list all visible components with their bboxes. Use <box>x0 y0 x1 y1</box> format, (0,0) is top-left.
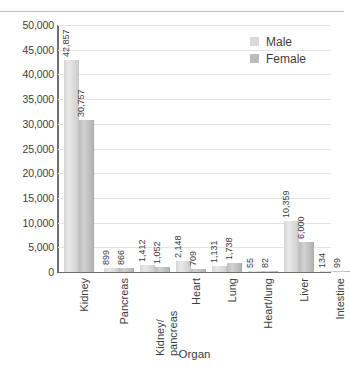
x-axis-category-text: Heart/lung <box>262 278 275 329</box>
bar-male[interactable] <box>248 271 263 272</box>
y-axis-tick-label: 0 <box>0 267 54 278</box>
y-axis-tick-label: 5,000 <box>0 242 54 253</box>
bar-value-label: 10,359 <box>282 190 291 218</box>
y-axis-tick-label: 25,000 <box>0 144 54 155</box>
x-axis-category-text: Kidney <box>78 278 91 312</box>
y-axis-tick-label: 10,000 <box>0 218 54 229</box>
bar-female[interactable] <box>191 269 206 273</box>
bar-male[interactable] <box>320 271 335 272</box>
x-axis-title: Organ <box>58 348 331 360</box>
bar-female[interactable] <box>335 271 350 272</box>
y-axis-tick-label: 40,000 <box>0 69 54 80</box>
chart-legend: Male Female <box>250 33 336 67</box>
bar-female[interactable] <box>155 267 170 272</box>
bar-value-label: 1,412 <box>138 240 147 263</box>
bar-female[interactable] <box>263 271 278 272</box>
bar-group: 899866 <box>104 25 134 272</box>
legend-item-male: Male <box>250 33 336 50</box>
legend-item-female: Female <box>250 50 336 67</box>
bar-value-label: 709 <box>189 250 198 265</box>
bar-value-label: 899 <box>102 250 111 265</box>
bar-group: 1,4121,052 <box>140 25 170 272</box>
bar-female[interactable] <box>227 263 242 272</box>
legend-label-female: Female <box>266 53 306 65</box>
y-axis-tick-label: 15,000 <box>0 193 54 204</box>
bar-value-label: 1,131 <box>210 241 219 264</box>
bar-value-label: 30,757 <box>77 90 86 118</box>
bar-value-label: 866 <box>117 250 126 265</box>
y-axis-tick-label: 20,000 <box>0 168 54 179</box>
bar-value-label: 1,052 <box>153 241 162 264</box>
bar-value-label: 134 <box>318 253 327 268</box>
bar-value-label: 6,000 <box>297 217 306 240</box>
bar-male[interactable] <box>140 265 155 272</box>
x-axis-category-text: Lung <box>226 278 239 302</box>
x-axis-category-text: Intestine <box>334 278 347 320</box>
y-axis-tick-label: 30,000 <box>0 119 54 130</box>
x-axis-category-text: Pancreas <box>118 278 131 324</box>
bar-female[interactable] <box>299 242 314 272</box>
legend-label-male: Male <box>266 36 292 48</box>
x-axis-category-text: Kidney/pancreas <box>154 278 179 356</box>
y-axis-tick-label: 45,000 <box>0 45 54 56</box>
y-axis-tick-label: 35,000 <box>0 94 54 105</box>
x-axis-category-text: Heart <box>190 278 203 305</box>
bar-group: 1,1311,738 <box>212 25 242 272</box>
bar-male[interactable] <box>212 266 227 272</box>
y-axis-tick-labels: 05,00010,00015,00020,00025,00030,00035,0… <box>0 0 54 369</box>
bar-value-label: 42,857 <box>62 30 71 58</box>
y-axis-tick-label: 50,000 <box>0 20 54 31</box>
bar-female[interactable] <box>119 268 134 272</box>
bar-value-label: 99 <box>333 258 342 268</box>
bar-value-label: 1,738 <box>225 238 234 261</box>
bar-female[interactable] <box>79 120 94 272</box>
x-axis-baseline <box>58 272 331 273</box>
bar-value-label: 2,148 <box>174 236 183 259</box>
bar-group: 42,85730,757 <box>64 25 94 272</box>
bar-value-label: 82 <box>261 258 270 268</box>
legend-swatch-female-icon <box>250 54 259 63</box>
legend-swatch-male-icon <box>250 37 259 46</box>
bar-group: 2,148709 <box>176 25 206 272</box>
x-axis-category-text: Liver <box>298 278 311 302</box>
bar-male[interactable] <box>104 268 119 272</box>
bar-value-label: 55 <box>246 258 255 268</box>
